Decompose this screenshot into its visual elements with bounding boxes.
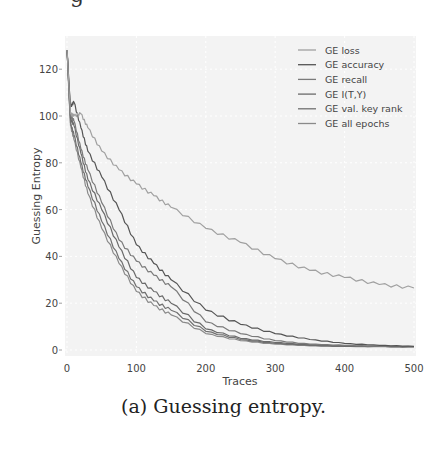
x-axis-label: Traces: [222, 375, 258, 388]
legend-label: GE I(T,Y): [325, 89, 366, 100]
y-tick-label: 0: [52, 345, 58, 356]
legend-label: GE val. key rank: [325, 103, 403, 114]
figure: g 020406080100120 0100200300400500 GE lo…: [0, 0, 447, 450]
y-tick-label: 120: [39, 64, 58, 75]
cut-off-heading: g: [70, 0, 84, 7]
y-tick-label: 100: [39, 111, 58, 122]
legend-label: GE accuracy: [325, 59, 385, 70]
figure-caption: (a) Guessing entropy.: [0, 395, 447, 417]
legend-label: GE loss: [325, 45, 360, 56]
legend-label: GE all epochs: [325, 118, 389, 129]
x-tick-label: 500: [404, 363, 423, 374]
y-tick-label: 20: [45, 298, 58, 309]
legend-label: GE recall: [325, 74, 367, 85]
x-tick-label: 100: [127, 363, 146, 374]
x-tick-label: 200: [196, 363, 215, 374]
y-tick-label: 80: [45, 158, 58, 169]
x-axis-ticks: 0100200300400500: [64, 363, 424, 374]
y-axis-label: Guessing Entropy: [30, 147, 43, 244]
guessing-entropy-chart: 020406080100120 0100200300400500 GE loss…: [0, 0, 447, 395]
x-tick-label: 300: [266, 363, 285, 374]
x-tick-label: 400: [335, 363, 354, 374]
y-tick-label: 60: [45, 205, 58, 216]
y-tick-label: 40: [45, 251, 58, 262]
x-tick-label: 0: [64, 363, 70, 374]
